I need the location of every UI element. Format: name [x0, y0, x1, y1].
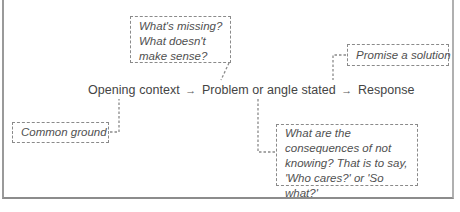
note-common-ground: Common ground	[12, 122, 109, 143]
note-line: What are the	[285, 126, 417, 141]
flow-step-problem-stated: Problem or angle stated	[202, 83, 336, 97]
note-line: knowing? That is to say,	[285, 156, 417, 171]
flow-line: Opening context → Problem or angle state…	[88, 83, 415, 97]
note-line: What's missing?	[139, 19, 230, 34]
flow-step-opening-context: Opening context	[88, 83, 180, 97]
note-line: Common ground	[21, 125, 108, 140]
note-line: 'Who cares?' or 'So what?'	[285, 171, 417, 201]
flow-step-response: Response	[358, 83, 415, 97]
note-line: Promise a solution	[356, 48, 448, 63]
note-line: consequences of not	[285, 141, 417, 156]
note-promise-solution: Promise a solution	[347, 44, 449, 66]
note-line: What doesn't	[139, 34, 230, 49]
right-arrow-icon: →	[339, 84, 354, 96]
note-line: make sense?	[139, 49, 230, 64]
right-arrow-icon: →	[183, 84, 198, 96]
note-whats-missing: What's missing? What doesn't make sense?	[130, 16, 231, 63]
note-consequences: What are the consequences of not knowing…	[276, 124, 418, 186]
